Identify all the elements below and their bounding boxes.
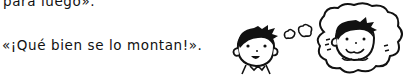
thought-puffs-icon (282, 22, 316, 44)
thought-bubble-icon (312, 2, 408, 78)
text-line-1: para luego». (3, 0, 95, 9)
text-line-2: «¡Qué bien se lo montan!». (2, 37, 203, 53)
boy-face-icon (228, 22, 288, 78)
